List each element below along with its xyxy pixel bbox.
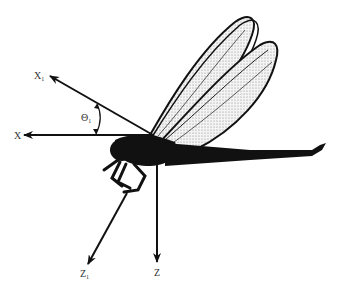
x-axis-label: X <box>14 130 22 141</box>
wings <box>150 17 277 151</box>
x1-axis-label: X1 <box>34 70 44 82</box>
abdomen <box>165 143 326 166</box>
axes <box>24 76 157 264</box>
z1-axis <box>88 193 127 264</box>
z-axis-label: Z <box>154 267 160 278</box>
z1-axis-label: Z1 <box>80 268 89 280</box>
x1-axis <box>50 76 153 135</box>
dragonfly-diagram: X X1 Z Z1 Θ1 <box>0 0 337 294</box>
dragonfly-body <box>104 135 326 192</box>
theta1-label: Θ1 <box>81 112 91 124</box>
